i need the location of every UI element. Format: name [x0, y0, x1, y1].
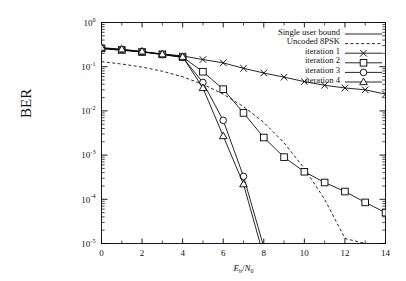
y-tick-label: 10-4 [81, 192, 95, 204]
x-axis-ticks: 02468101214 [99, 23, 390, 258]
y-tick-label: 10-5 [81, 237, 95, 249]
series-line [102, 48, 261, 244]
svg-text:Eb/N0: Eb/N0 [232, 263, 253, 274]
chart-figure: BER 10010-110-210-310-410-502468101214Eb… [0, 0, 406, 281]
legend-label: Uncoded 8PSK [287, 36, 341, 46]
legend: Single user boundUncoded 8PSKiteration 1… [278, 27, 382, 85]
data-series-group [98, 44, 389, 244]
legend-label: iteration 4 [305, 75, 341, 85]
series-4 [98, 45, 263, 244]
legend-label: iteration 1 [305, 46, 340, 56]
x-tick-label: 0 [99, 248, 104, 258]
x-axis-label: Eb/N0 [232, 263, 253, 274]
y-tick-label: 10-2 [81, 104, 95, 116]
x-tick-label: 2 [140, 248, 145, 258]
legend-label: Single user bound [278, 27, 341, 37]
y-tick-label: 10-3 [81, 148, 95, 160]
series-line [102, 62, 366, 244]
x-tick-label: 10 [300, 248, 310, 258]
y-tick-label: 100 [83, 16, 95, 28]
series-5 [98, 44, 260, 244]
legend-label: iteration 3 [305, 65, 340, 75]
legend-label: iteration 2 [305, 55, 340, 65]
x-tick-label: 8 [262, 248, 267, 258]
series-1 [102, 62, 366, 244]
series-3 [98, 45, 389, 216]
x-tick-label: 4 [180, 248, 185, 258]
x-tick-label: 12 [340, 248, 349, 258]
x-tick-label: 14 [381, 248, 391, 258]
series-line [102, 48, 263, 244]
x-tick-label: 6 [221, 248, 226, 258]
ber-plot-svg: 10010-110-210-310-410-502468101214Eb/N0S… [0, 0, 406, 281]
y-axis-label: BER [18, 89, 35, 118]
y-tick-label: 10-1 [81, 60, 95, 72]
